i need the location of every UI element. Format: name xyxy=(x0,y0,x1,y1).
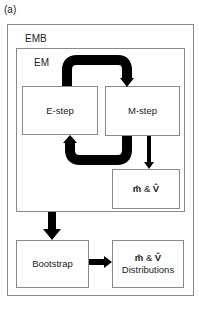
e-step-label: E-step xyxy=(46,105,73,117)
estimates-box: m̂ & V̂ xyxy=(112,169,180,209)
ampersand: & xyxy=(144,183,150,194)
e-step-box: E-step xyxy=(22,86,98,135)
emb-label: EMB xyxy=(25,33,47,45)
bootstrap-label: Bootstrap xyxy=(32,258,73,270)
m-step-label: M-step xyxy=(128,105,157,117)
distributions-symbols: m̂ & V̂ xyxy=(135,252,161,264)
m-hat-symbol: m̂ xyxy=(133,183,141,194)
em-label: EM xyxy=(34,57,49,69)
panel-label: (a) xyxy=(4,4,16,16)
bootstrap-box: Bootstrap xyxy=(16,240,89,288)
distributions-box: m̂ & V̂ Distributions xyxy=(112,240,184,288)
v-hat-symbol: V̂ xyxy=(153,183,159,194)
ampersand: & xyxy=(146,252,152,263)
v-hat-symbol: V̂ xyxy=(155,252,161,263)
estimates-label: m̂ & V̂ xyxy=(133,183,159,195)
m-hat-symbol: m̂ xyxy=(135,252,143,263)
distributions-label: Distributions xyxy=(122,264,174,276)
m-step-box: M-step xyxy=(105,86,180,136)
